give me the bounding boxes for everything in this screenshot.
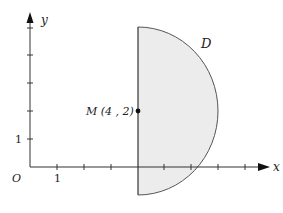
y-tick-label-1: 1 [15, 133, 22, 146]
half-disk-diagram: y x O 1 1 D M (4 , 2) [0, 0, 283, 213]
point-m [136, 109, 141, 114]
x-tick-label-1: 1 [54, 172, 61, 185]
point-m-label: M (4 , 2) [85, 105, 134, 118]
x-axis-label: x [273, 160, 280, 174]
region-d-label: D [200, 36, 212, 51]
origin-label: O [12, 172, 21, 185]
y-axis-label: y [40, 13, 48, 27]
region-d [138, 27, 218, 195]
x-axis-arrow-icon [258, 163, 270, 171]
y-axis-arrow-icon [27, 12, 34, 23]
